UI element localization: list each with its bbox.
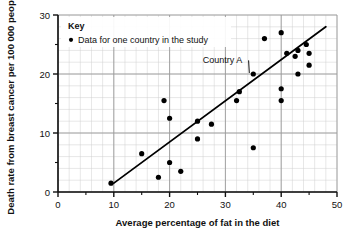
data-point: [237, 89, 242, 94]
data-point: [178, 169, 183, 174]
legend-entry-label: Data for one country in the study: [78, 35, 209, 45]
y-axis-title: Death rate from breast cancer per 100 00…: [5, 0, 16, 215]
data-point: [167, 160, 172, 165]
data-point: [234, 98, 239, 103]
annotation-label: Country A: [203, 55, 243, 65]
scatter-chart-figure: 010203040500102030KeyData for one countr…: [0, 0, 348, 232]
y-axis-tick-label: 20: [39, 69, 50, 80]
y-axis-tick-label: 30: [39, 10, 50, 21]
x-axis-tick-label: 10: [109, 199, 120, 210]
y-axis-tick-label: 0: [45, 187, 50, 198]
data-point: [295, 48, 300, 53]
data-point: [251, 71, 256, 76]
annotation-leader-line: [249, 60, 250, 73]
data-point: [279, 30, 284, 35]
legend-marker-dot: [69, 38, 73, 42]
legend-title: Key: [68, 21, 85, 31]
data-point: [209, 122, 214, 127]
data-point: [251, 145, 256, 150]
data-point: [195, 119, 200, 124]
data-point: [195, 136, 200, 141]
x-axis-tick-label: 30: [220, 199, 231, 210]
x-axis-tick-label: 20: [164, 199, 175, 210]
data-point: [293, 54, 298, 59]
data-point: [295, 71, 300, 76]
data-point: [304, 42, 309, 47]
data-point: [156, 175, 161, 180]
data-point: [279, 86, 284, 91]
data-point: [139, 151, 144, 156]
data-point: [167, 116, 172, 121]
chart-legend: KeyData for one country in the study: [61, 17, 231, 47]
x-axis-tick-label: 50: [332, 199, 343, 210]
data-point: [279, 98, 284, 103]
x-axis-tick-label: 40: [276, 199, 287, 210]
data-point: [108, 181, 113, 186]
data-point: [307, 51, 312, 56]
chart-svg: 010203040500102030KeyData for one countr…: [0, 0, 348, 232]
x-axis-title: Average percentage of fat in the diet: [116, 217, 281, 228]
y-axis-tick-label: 10: [39, 128, 50, 139]
data-point: [161, 98, 166, 103]
data-point: [262, 36, 267, 41]
data-point: [307, 63, 312, 68]
x-axis-tick-label: 0: [55, 199, 60, 210]
data-point: [284, 51, 289, 56]
